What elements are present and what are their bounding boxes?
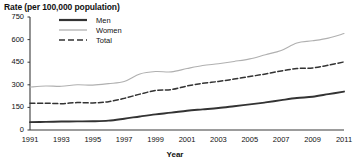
y-tick-0: 0 — [0, 126, 24, 134]
x-tick-1993: 1993 — [46, 136, 76, 144]
x-tick-1997: 1997 — [109, 136, 139, 144]
x-tick-1999: 1999 — [141, 136, 171, 144]
y-tick-150: 150 — [0, 103, 24, 111]
x-tick-2007: 2007 — [266, 136, 296, 144]
x-tick-2001: 2001 — [172, 136, 202, 144]
y-tick-450: 450 — [0, 58, 24, 66]
y-tick-300: 300 — [0, 81, 24, 89]
x-tick-2011: 2011 — [329, 136, 357, 144]
y-tick-600: 600 — [0, 36, 24, 44]
legend-swatch-total-icon — [58, 35, 88, 45]
x-axis-title: Year — [0, 150, 350, 159]
legend-label-men: Men — [96, 16, 111, 25]
legend-label-total: Total — [96, 36, 112, 45]
legend: Men Women Total — [58, 15, 122, 45]
legend-item-total: Total — [58, 35, 122, 45]
data-series-group — [30, 34, 344, 123]
legend-swatch-women-icon — [58, 25, 88, 35]
y-tick-750: 750 — [0, 13, 24, 21]
legend-label-women: Women — [96, 26, 122, 35]
x-tick-2005: 2005 — [235, 136, 265, 144]
legend-swatch-men-icon — [58, 15, 88, 25]
x-tick-2009: 2009 — [298, 136, 328, 144]
series-line-men — [30, 92, 344, 123]
legend-item-men: Men — [58, 15, 122, 25]
legend-item-women: Women — [58, 25, 122, 35]
x-tick-1995: 1995 — [78, 136, 108, 144]
x-tick-1991: 1991 — [15, 136, 45, 144]
x-tick-2003: 2003 — [203, 136, 233, 144]
